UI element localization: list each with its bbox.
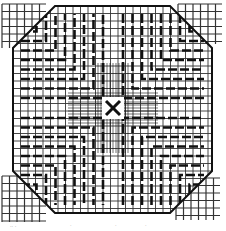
bottom-marks: .. . · · ·: [0, 222, 226, 230]
octagon-grid-diagram: [0, 0, 226, 231]
mark: ·: [70, 222, 72, 228]
diagram: .. . · · ·: [0, 0, 226, 231]
mark: ·: [145, 222, 147, 228]
mark: ·: [115, 222, 117, 228]
mark: .. .: [10, 222, 16, 228]
